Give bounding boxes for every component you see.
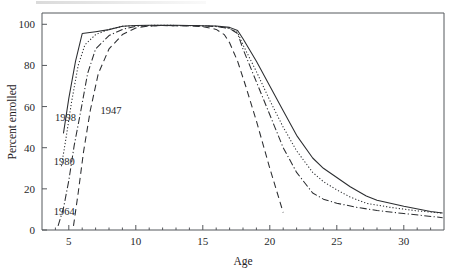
y-tick-label: 40	[24, 142, 36, 154]
series-label-1980: 1980	[54, 156, 75, 167]
y-tick-label: 80	[24, 59, 36, 71]
series-line-1964	[58, 26, 443, 226]
x-tick-label: 30	[398, 235, 410, 247]
y-tick-label: 0	[30, 224, 36, 236]
x-tick-label: 15	[197, 235, 209, 247]
series-label-1964: 1964	[54, 206, 76, 217]
x-axis-title: Age	[233, 255, 252, 268]
y-axis-title: Percent enrolled	[6, 84, 18, 159]
x-tick-label: 20	[264, 235, 276, 247]
line-chart: 02040608010051015202530AgePercent enroll…	[0, 0, 454, 269]
y-tick-label: 20	[24, 183, 36, 195]
series-label-1998: 1998	[55, 112, 76, 123]
series-line-1998	[63, 25, 442, 213]
figure-root: 02040608010051015202530AgePercent enroll…	[0, 0, 454, 269]
y-tick-label: 100	[19, 18, 36, 30]
x-tick-label: 10	[130, 235, 142, 247]
axis-frame	[42, 13, 444, 230]
x-tick-label: 5	[66, 235, 72, 247]
x-tick-label: 25	[331, 235, 343, 247]
series-line-1947	[73, 26, 283, 226]
series-label-1947: 1947	[101, 105, 122, 116]
y-tick-label: 60	[24, 101, 36, 113]
